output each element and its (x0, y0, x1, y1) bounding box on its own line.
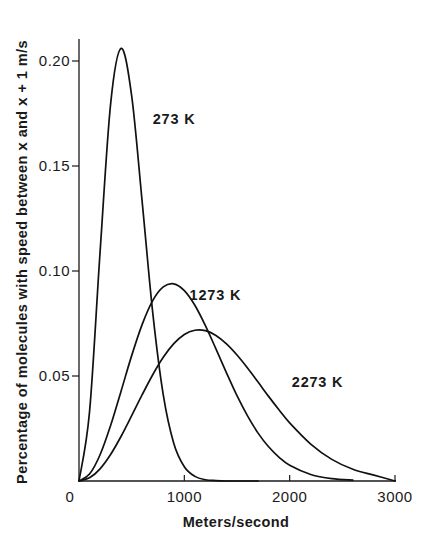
x-tick-label: 1000 (167, 488, 202, 505)
series-label-1273k: 1273 K (190, 287, 242, 303)
curve-2273k (79, 330, 395, 481)
x-tick-label: 0 (66, 488, 75, 505)
x-tick-label: 3000 (377, 488, 412, 505)
plot-area: 0100020003000 0.050.100.150.20 273 K1273… (39, 39, 413, 505)
y-axis-title-part-1: Percentage of molecules with speed betwe… (14, 151, 30, 484)
speed-distribution-chart: 0100020003000 0.050.100.150.20 273 K1273… (0, 0, 428, 539)
y-axis-title-part-3: + 1 m/s (14, 40, 30, 97)
y-tick-label: 0.15 (39, 157, 70, 174)
x-axis-ticks: 0100020003000 (66, 475, 413, 505)
y-tick-label: 0.10 (39, 262, 70, 279)
y-axis-title-part-2: and (14, 106, 30, 142)
y-tick-label: 0.20 (39, 52, 70, 69)
y-axis-title: Percentage of molecules with speed betwe… (13, 40, 30, 484)
y-axis-title-var-x-1: x (13, 142, 30, 151)
series-label-273k: 273 K (153, 111, 196, 127)
series-label-2273k: 2273 K (292, 374, 344, 390)
series-labels: 273 K1273 K2273 K (153, 111, 344, 390)
y-axis-title-var-x-2: x (13, 97, 30, 106)
series-curves (79, 48, 395, 481)
y-axis-ticks: 0.050.100.150.20 (39, 52, 79, 384)
y-tick-label: 0.05 (39, 367, 70, 384)
x-tick-label: 2000 (272, 488, 307, 505)
x-axis-title: Meters/second (183, 514, 290, 530)
